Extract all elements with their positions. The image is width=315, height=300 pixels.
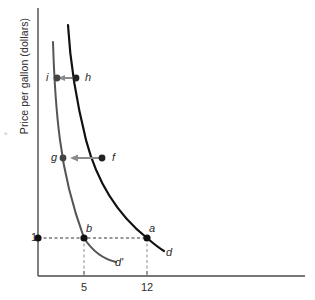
- point-h: [73, 75, 80, 82]
- shift-arrows: [58, 75, 99, 162]
- demand-curve-chart: Price per gallon (dollars) *: [0, 0, 315, 300]
- y-tick-label-1: 1: [23, 231, 37, 243]
- arrow-f-to-g-head: [70, 155, 78, 162]
- label-point-f: f: [112, 151, 115, 163]
- label-curve-d-prime: d': [115, 256, 123, 268]
- x-tick-label-5: 5: [69, 281, 99, 293]
- x-tick-label-12: 12: [132, 281, 162, 293]
- point-g: [60, 155, 67, 162]
- point-a: [143, 234, 150, 241]
- label-point-i: i: [46, 71, 48, 83]
- y-axis-title: Price per gallon (dollars): [18, 0, 30, 171]
- point-b: [80, 234, 87, 241]
- axis-lines: [38, 8, 305, 276]
- guide-lines: [38, 238, 147, 276]
- plot-area: [0, 0, 315, 300]
- point-f: [99, 155, 106, 162]
- label-curve-d: d: [166, 246, 172, 258]
- label-point-a: a: [149, 222, 155, 234]
- label-point-b: b: [86, 222, 92, 234]
- label-point-g: g: [51, 151, 57, 163]
- point-i: [54, 75, 61, 82]
- demand-curve-d: [68, 25, 164, 251]
- footnote-marker: *: [4, 130, 8, 140]
- label-point-h: h: [85, 71, 91, 83]
